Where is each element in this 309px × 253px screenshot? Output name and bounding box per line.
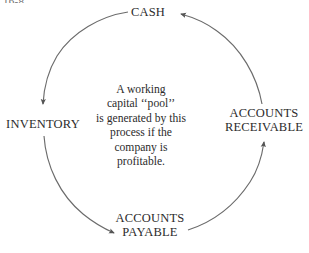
caption-line-4: process if the: [88, 126, 194, 140]
caption-line-6: profitable.: [88, 155, 194, 169]
node-label-accounts-receivable-line1: ACCOUNTS: [230, 106, 299, 120]
node-label-accounts-payable-line1: ACCOUNTS: [116, 211, 185, 225]
node-label-inventory: INVENTORY: [2, 118, 84, 132]
node-label-cash: CASH: [118, 6, 178, 20]
caption-line-5: company is: [88, 141, 194, 155]
node-label-accounts-payable-line2: PAYABLE: [122, 225, 177, 239]
caption-line-2: capital ‘‘pool’’: [88, 97, 194, 111]
caption-line-1: A working: [88, 83, 194, 97]
caption-line-3: is generated by this: [88, 112, 194, 126]
node-label-accounts-receivable-line2: RECEIVABLE: [225, 120, 303, 134]
arrow-payable-to-receivable: [188, 142, 264, 230]
node-label-accounts-receivable: ACCOUNTS RECEIVABLE: [220, 107, 308, 134]
center-caption-text: A working capital ‘‘pool’’ is generated …: [88, 83, 194, 170]
working-capital-cycle-figure: 16-8. CASH INVENTORY ACCOUNTS RECEIVABLE…: [0, 0, 309, 253]
node-label-accounts-payable: ACCOUNTS PAYABLE: [110, 212, 190, 239]
